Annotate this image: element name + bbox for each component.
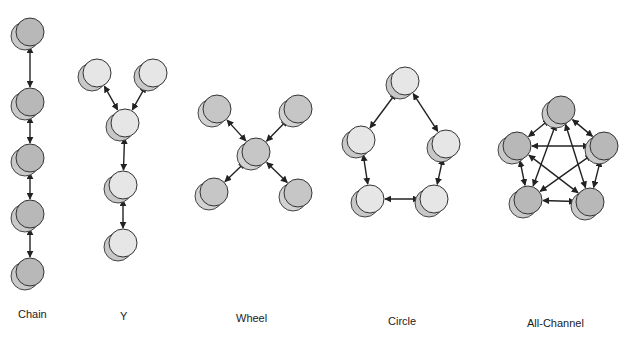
circle-node: [351, 185, 384, 217]
circle-link: [437, 159, 443, 185]
y-node: [134, 59, 167, 91]
all-channel-node: [509, 186, 542, 218]
y-node: [104, 171, 137, 203]
wheel-label: Wheel: [236, 312, 267, 324]
chain-node: [11, 88, 44, 120]
y-node: [106, 109, 139, 141]
all-channel-link: [520, 161, 525, 186]
all-channel-link: [573, 120, 593, 137]
all-channel-node: [571, 188, 604, 220]
y-link: [104, 86, 117, 110]
circle-node: [342, 126, 375, 158]
chain-node: [11, 144, 44, 176]
circle-node: [427, 130, 460, 162]
all-channel-link: [533, 124, 556, 186]
y-label: Y: [120, 310, 127, 322]
all-channel-link: [529, 155, 578, 193]
circle-label: Circle: [388, 315, 416, 327]
all-channel-link: [594, 161, 601, 188]
wheel-node: [279, 95, 312, 127]
chain-node: [11, 18, 44, 50]
circle-link: [370, 93, 396, 128]
wheel-link: [227, 120, 246, 141]
all-channel-node: [585, 132, 618, 164]
communication-networks-diagram: [0, 0, 627, 337]
wheel-node: [237, 138, 270, 170]
circle-link: [363, 155, 367, 184]
wheel-node: [195, 178, 228, 210]
wheel-node: [198, 95, 231, 127]
chain-label: Chain: [18, 308, 47, 320]
all-channel-node: [498, 132, 531, 164]
all-channel-link: [566, 124, 586, 187]
all-channel-node: [542, 96, 575, 128]
y-node: [104, 229, 137, 261]
y-node: [78, 59, 111, 91]
all-channel-link: [543, 200, 575, 201]
all-channel-label: All-Channel: [527, 317, 584, 329]
chain-node: [11, 200, 44, 232]
chain-node: [11, 258, 44, 290]
circle-link: [413, 94, 438, 132]
wheel-node: [279, 179, 312, 211]
wheel-link: [267, 162, 288, 182]
all-channel-link: [540, 155, 592, 192]
circle-node: [415, 185, 448, 217]
y-link: [123, 138, 124, 170]
